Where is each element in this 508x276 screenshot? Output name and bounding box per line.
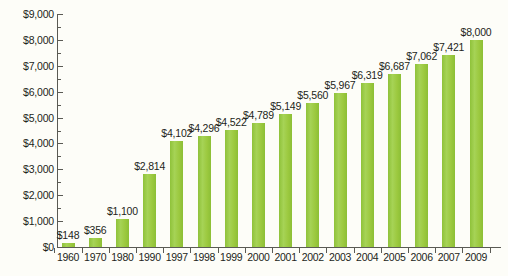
bar (89, 238, 102, 247)
y-axis-tick-label: $1,000 (0, 216, 54, 226)
y-axis-tick-label: $6,000 (0, 87, 54, 97)
x-axis-tick-label: 2006 (411, 251, 433, 263)
x-axis-tick-mark (190, 248, 191, 253)
x-axis-tick-mark (218, 248, 219, 253)
x-axis-tick-mark (272, 248, 273, 253)
bar-value-label: $5,560 (297, 90, 328, 101)
plot-area: $148$356$1,100$2,814$4,102$4,296$4,522$4… (57, 14, 501, 247)
bar-value-label: $6,687 (379, 61, 410, 72)
bar (225, 130, 238, 247)
bar-chart: $0$1,000$2,000$3,000$4,000$5,000$6,000$7… (0, 0, 508, 276)
bar (170, 141, 183, 247)
x-axis-tick-mark (54, 248, 55, 253)
x-axis-tick-mark (82, 248, 83, 253)
x-axis-tick-label: 2002 (302, 251, 324, 263)
x-axis-tick-label: 2005 (383, 251, 405, 263)
x-axis-tick-label: 2000 (247, 251, 269, 263)
x-axis-tick-mark (245, 248, 246, 253)
y-axis-tick-label: $4,000 (0, 138, 54, 148)
x-axis-tick-label: 1999 (220, 251, 242, 263)
bar (334, 93, 347, 247)
y-axis-tick-label: $3,000 (0, 164, 54, 174)
x-axis-tick-label: 2009 (465, 251, 487, 263)
bar (388, 74, 401, 247)
y-axis-tick-label: $0 (0, 242, 54, 252)
y-axis-tick-label: $7,000 (0, 61, 54, 71)
bar-value-label: $1,100 (107, 206, 138, 217)
y-axis-tick-label: $9,000 (0, 9, 54, 19)
x-axis-tick-label: 2003 (329, 251, 351, 263)
bar (116, 219, 129, 247)
x-axis-tick-mark (163, 248, 164, 253)
bar (279, 114, 292, 247)
x-axis-tick-label: 1998 (193, 251, 215, 263)
x-axis-tick-mark (354, 248, 355, 253)
bar (442, 55, 455, 247)
bar (198, 136, 211, 247)
y-axis-tick-mark (57, 247, 63, 248)
x-axis-tick-mark (490, 248, 491, 253)
x-axis-tick-label: 1997 (166, 251, 188, 263)
bar-value-label: $5,149 (270, 101, 301, 112)
bar (252, 123, 265, 247)
x-axis-tick-label: 1970 (84, 251, 106, 263)
x-axis-tick-label: 1990 (139, 251, 161, 263)
bar-value-label: $7,421 (433, 42, 464, 53)
x-axis-tick-label: 2004 (356, 251, 378, 263)
bar (62, 243, 75, 247)
x-axis-tick-mark (462, 248, 463, 253)
x-axis-tick-mark (435, 248, 436, 253)
bar (361, 83, 374, 247)
x-axis-tick-mark (326, 248, 327, 253)
x-axis-tick-label: 1960 (57, 251, 79, 263)
y-axis-tick-label: $2,000 (0, 190, 54, 200)
y-axis-tick-label: $5,000 (0, 113, 54, 123)
bar (415, 64, 428, 247)
x-axis-tick-label: 1980 (111, 251, 133, 263)
x-axis-tick-mark (299, 248, 300, 253)
x-axis-tick-label: 2007 (438, 251, 460, 263)
x-axis-tick-mark (408, 248, 409, 253)
bar-value-label: $2,814 (134, 161, 165, 172)
x-axis-tick-mark (136, 248, 137, 253)
x-axis-tick-mark (109, 248, 110, 253)
bar-value-label: $6,319 (352, 70, 383, 81)
bar-value-label: $356 (84, 225, 107, 236)
y-axis-tick-label: $8,000 (0, 35, 54, 45)
bar (143, 174, 156, 247)
bar (470, 40, 483, 247)
x-axis-tick-mark (381, 248, 382, 253)
x-axis-tick-label: 2001 (275, 251, 297, 263)
bar (306, 103, 319, 247)
bar-value-label: $148 (57, 230, 80, 241)
bar-value-label: $8,000 (461, 27, 492, 38)
